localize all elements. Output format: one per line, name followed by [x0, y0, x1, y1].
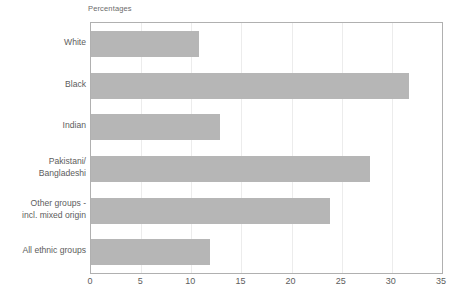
x-tick-label: 20: [286, 276, 296, 286]
category-label: Pakistani/ Bangladeshi: [0, 156, 86, 179]
category-label: White: [0, 37, 86, 49]
x-tick-label: 15: [235, 276, 245, 286]
bar: [91, 31, 199, 57]
category-label: Indian: [0, 120, 86, 132]
category-label: Other groups - incl. mixed origin: [0, 198, 86, 221]
bar: [91, 198, 330, 224]
y-axis-category-labels: WhiteBlackIndianPakistani/ BangladeshiOt…: [0, 22, 86, 272]
x-axis-tick-labels: 05101520253035: [90, 276, 441, 294]
x-tick-label: 0: [87, 276, 92, 286]
x-tick-label: 5: [138, 276, 143, 286]
x-tick-label: 10: [185, 276, 195, 286]
plot-area: [90, 22, 443, 274]
x-tick-label: 35: [436, 276, 446, 286]
bar-chart-figure: Percentages WhiteBlackIndianPakistani/ B…: [0, 0, 456, 302]
bar: [91, 239, 210, 265]
chart-title: Percentages: [88, 4, 132, 13]
category-label: Black: [0, 79, 86, 91]
bar: [91, 156, 370, 182]
bar: [91, 114, 220, 140]
x-tick-label: 30: [386, 276, 396, 286]
category-label: All ethnic groups: [0, 245, 86, 257]
bar-series: [91, 23, 442, 273]
x-tick-label: 25: [336, 276, 346, 286]
bar: [91, 73, 409, 99]
